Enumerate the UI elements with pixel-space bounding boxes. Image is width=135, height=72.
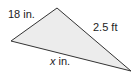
unit-in: in. [56,55,71,67]
bottom-side-label: x in. [49,55,70,67]
right-side-label: 2.5 ft [93,21,117,33]
triangle-diagram: 18 in. 2.5 ft x in. [0,0,135,72]
left-side-label: 18 in. [8,8,35,20]
